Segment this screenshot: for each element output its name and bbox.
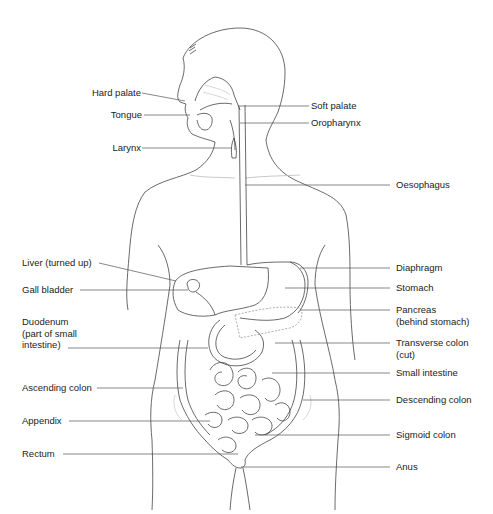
colon-frame xyxy=(174,340,311,468)
label-pancreas-line2: (behind stomach) xyxy=(396,316,469,328)
liver-shape xyxy=(173,266,268,316)
label-appendix: Appendix xyxy=(22,415,62,427)
label-duodenum-line1: Duodenum xyxy=(22,316,77,328)
duodenum-shape xyxy=(209,320,264,366)
label-oropharynx: Oropharynx xyxy=(311,117,361,129)
label-transverse-colon-line2: (cut) xyxy=(396,349,469,361)
label-anus: Anus xyxy=(396,461,418,473)
label-ascending-colon: Ascending colon xyxy=(22,382,92,394)
label-hard-palate: Hard palate xyxy=(65,87,141,99)
small-intestine-coils xyxy=(205,363,290,453)
label-soft-palate: Soft palate xyxy=(311,100,356,112)
label-sigmoid-colon: Sigmoid colon xyxy=(396,429,456,441)
label-larynx: Larynx xyxy=(65,142,141,154)
label-transverse-colon-line1: Transverse colon xyxy=(396,337,469,349)
label-transverse-colon: Transverse colon (cut) xyxy=(396,337,469,360)
pancreas-shape xyxy=(235,307,302,338)
digestive-system-diagram: Hard palate Tongue Larynx Liver (turned … xyxy=(0,0,493,514)
label-gall-bladder: Gall bladder xyxy=(22,284,73,296)
oesophagus-tube xyxy=(231,105,247,265)
label-duodenum-line3: intestine) xyxy=(22,339,77,351)
label-stomach: Stomach xyxy=(396,282,434,294)
label-duodenum: Duodenum (part of small intestine) xyxy=(22,316,77,351)
label-duodenum-line2: (part of small xyxy=(22,328,77,340)
label-pancreas: Pancreas (behind stomach) xyxy=(396,304,469,327)
label-oesophagus: Oesophagus xyxy=(396,179,450,191)
label-rectum: Rectum xyxy=(22,448,55,460)
label-pancreas-line1: Pancreas xyxy=(396,304,469,316)
label-tongue: Tongue xyxy=(65,109,142,121)
label-descending-colon: Descending colon xyxy=(396,394,472,406)
label-small-intestine: Small intestine xyxy=(396,367,458,379)
label-diaphragm: Diaphragm xyxy=(396,262,442,274)
label-liver: Liver (turned up) xyxy=(22,257,92,269)
